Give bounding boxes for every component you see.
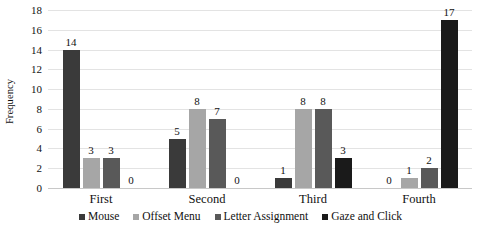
x-axis-labels: FirstSecondThirdFourth — [48, 190, 472, 210]
y-tick-label: 16 — [2, 24, 42, 35]
bar-value-label: 1 — [280, 165, 286, 176]
bar-value-label: 0 — [234, 175, 240, 186]
legend-item[interactable]: Gaze and Click — [322, 211, 402, 223]
bar-value-label: 3 — [340, 145, 346, 156]
bar[interactable] — [441, 20, 458, 188]
legend-swatch-icon — [133, 214, 139, 220]
legend-label: Gaze and Click — [331, 211, 402, 223]
legend: MouseOffset MenuLetter AssignmentGaze an… — [0, 211, 481, 223]
legend-label: Mouse — [88, 211, 119, 223]
bar-value-label: 14 — [66, 37, 77, 48]
bar-slot: 3 — [83, 10, 100, 188]
legend-label: Letter Assignment — [224, 211, 309, 223]
bar[interactable] — [275, 178, 292, 188]
bar-slot: 3 — [103, 10, 120, 188]
bar-value-label: 17 — [444, 7, 455, 18]
bar-group: 01217 — [366, 10, 472, 188]
bar-group: 5870 — [154, 10, 260, 188]
y-tick-label: 14 — [2, 44, 42, 55]
bar-slot: 8 — [295, 10, 312, 188]
y-tick-label: 8 — [2, 103, 42, 114]
bar-groups: 143305870188301217 — [48, 10, 472, 188]
bar-slot: 17 — [441, 10, 458, 188]
bar-slot: 0 — [229, 10, 246, 188]
gridline — [48, 188, 472, 189]
legend-item[interactable]: Letter Assignment — [215, 211, 309, 223]
bar-group-bars: 5870 — [154, 10, 260, 188]
bar-slot: 2 — [421, 10, 438, 188]
bar[interactable] — [209, 119, 226, 188]
bar-value-label: 0 — [386, 175, 392, 186]
bar-group-bars: 14330 — [48, 10, 154, 188]
bar-value-label: 7 — [214, 106, 220, 117]
bar-value-label: 5 — [174, 126, 180, 137]
x-axis-category-label: Fourth — [366, 190, 472, 210]
legend-label: Offset Menu — [142, 211, 200, 223]
bar[interactable] — [295, 109, 312, 188]
y-tick-label: 0 — [2, 183, 42, 194]
y-tick-label: 6 — [2, 123, 42, 134]
bar-value-label: 0 — [128, 175, 134, 186]
bar-group: 14330 — [48, 10, 154, 188]
bar-slot: 3 — [335, 10, 352, 188]
bar[interactable] — [335, 158, 352, 188]
y-tick-label: 10 — [2, 84, 42, 95]
bar-value-label: 8 — [300, 96, 306, 107]
bar-slot: 14 — [63, 10, 80, 188]
bar-value-label: 3 — [88, 145, 94, 156]
legend-item[interactable]: Mouse — [79, 211, 119, 223]
bar[interactable] — [63, 50, 80, 188]
bar[interactable] — [83, 158, 100, 188]
bar[interactable] — [421, 168, 438, 188]
legend-swatch-icon — [79, 214, 85, 220]
bar-slot: 5 — [169, 10, 186, 188]
legend-swatch-icon — [322, 214, 328, 220]
x-axis-category-label: Third — [260, 190, 366, 210]
bar-slot: 7 — [209, 10, 226, 188]
y-tick-label: 2 — [2, 163, 42, 174]
bar-slot: 1 — [275, 10, 292, 188]
bar-slot: 8 — [189, 10, 206, 188]
y-tick-label: 12 — [2, 64, 42, 75]
bar-slot: 1 — [401, 10, 418, 188]
bar-group-bars: 1883 — [260, 10, 366, 188]
bar[interactable] — [169, 139, 186, 188]
bar-value-label: 2 — [426, 155, 432, 166]
bar-value-label: 8 — [194, 96, 200, 107]
plot-area: 143305870188301217 — [48, 10, 472, 188]
legend-swatch-icon — [215, 214, 221, 220]
legend-item[interactable]: Offset Menu — [133, 211, 200, 223]
bar-slot: 0 — [381, 10, 398, 188]
x-axis-category-label: Second — [154, 190, 260, 210]
y-tick-label: 18 — [2, 5, 42, 16]
x-axis-category-label: First — [48, 190, 154, 210]
bar[interactable] — [189, 109, 206, 188]
bar-value-label: 8 — [320, 96, 326, 107]
bar-group-bars: 01217 — [366, 10, 472, 188]
bar-slot: 0 — [123, 10, 140, 188]
bar-value-label: 1 — [406, 165, 412, 176]
bar-group: 1883 — [260, 10, 366, 188]
y-tick-label: 4 — [2, 143, 42, 154]
bar[interactable] — [103, 158, 120, 188]
bar-chart: Frequency 143305870188301217 18161412108… — [0, 0, 481, 239]
bar-value-label: 3 — [108, 145, 114, 156]
bar-slot: 8 — [315, 10, 332, 188]
bar[interactable] — [401, 178, 418, 188]
bar[interactable] — [315, 109, 332, 188]
